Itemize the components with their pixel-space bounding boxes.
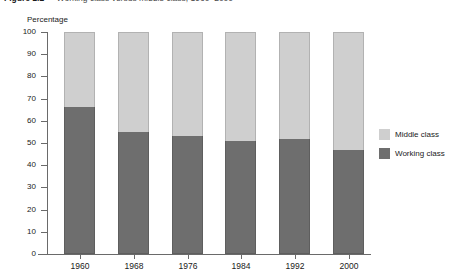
x-axis-tick-label: 1976 xyxy=(166,262,210,271)
bar-segment-middle-class[interactable] xyxy=(333,32,364,150)
legend-item[interactable]: Working class xyxy=(379,148,459,159)
bar-segment-middle-class[interactable] xyxy=(64,32,95,107)
bar-group[interactable] xyxy=(333,32,364,254)
y-axis-tick-label: 0 xyxy=(0,250,36,258)
bar-segment-working-class[interactable] xyxy=(225,141,256,254)
bar-segment-middle-class[interactable] xyxy=(118,32,149,132)
legend-item-label: Middle class xyxy=(395,130,439,139)
x-axis-tick-label: 1984 xyxy=(219,262,263,271)
bar-segment-working-class[interactable] xyxy=(279,139,310,254)
x-axis-tick xyxy=(80,255,81,259)
plot-area xyxy=(47,32,369,254)
x-axis-line xyxy=(38,254,371,255)
x-axis-tick-label: 1968 xyxy=(112,262,156,271)
bar-group[interactable] xyxy=(225,32,256,254)
bar-segment-middle-class[interactable] xyxy=(172,32,203,136)
y-axis-tick-label: 50 xyxy=(0,139,36,147)
y-axis-tick-label: 90 xyxy=(0,50,36,58)
legend-swatch-icon xyxy=(379,129,390,140)
chart-legend: Middle classWorking class xyxy=(379,129,459,167)
bar-group[interactable] xyxy=(64,32,95,254)
bar-group[interactable] xyxy=(172,32,203,254)
legend-swatch-icon xyxy=(379,148,390,159)
bar-segment-working-class[interactable] xyxy=(333,150,364,254)
x-axis-tick-label: 1992 xyxy=(273,262,317,271)
y-axis-tick-label: 100 xyxy=(0,28,36,36)
bar-segment-working-class[interactable] xyxy=(64,107,95,254)
stacked-bar-chart: Percentage 0102030405060708090100 196019… xyxy=(0,0,459,278)
y-axis-tick-label: 70 xyxy=(0,95,36,103)
bar-group[interactable] xyxy=(279,32,310,254)
x-axis-tick xyxy=(188,255,189,259)
y-axis-tick-label: 10 xyxy=(0,228,36,236)
y-axis-tick-label: 20 xyxy=(0,206,36,214)
x-axis-tick xyxy=(349,255,350,259)
y-axis-tick-label: 40 xyxy=(0,161,36,169)
y-axis-title: Percentage xyxy=(27,15,68,24)
x-axis-tick xyxy=(295,255,296,259)
x-axis-tick-label: 1960 xyxy=(58,262,102,271)
bar-segment-working-class[interactable] xyxy=(118,132,149,254)
bar-segment-middle-class[interactable] xyxy=(225,32,256,141)
legend-item-label: Working class xyxy=(395,149,445,158)
x-axis-tick-label: 2000 xyxy=(327,262,371,271)
bar-group[interactable] xyxy=(118,32,149,254)
y-axis-tick xyxy=(41,254,47,255)
bar-segment-middle-class[interactable] xyxy=(279,32,310,139)
bar-segment-working-class[interactable] xyxy=(172,136,203,254)
x-axis-tick xyxy=(241,255,242,259)
y-axis-tick-label: 80 xyxy=(0,72,36,80)
x-axis-tick xyxy=(134,255,135,259)
y-axis-tick-label: 30 xyxy=(0,183,36,191)
y-axis-tick-label: 60 xyxy=(0,117,36,125)
legend-item[interactable]: Middle class xyxy=(379,129,459,140)
